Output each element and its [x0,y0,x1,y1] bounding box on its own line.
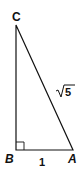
triangle-diagram: C B A 1 5 [0,0,83,172]
side-label-ab: 1 [39,156,45,168]
vertex-label-c: C [12,10,21,24]
vertex-label-b: B [5,152,14,166]
vertex-label-a: A [67,152,77,166]
right-angle-marker [16,142,24,150]
side-label-ac-radicand: 5 [65,86,71,98]
side-label-ac: 5 [56,85,75,98]
